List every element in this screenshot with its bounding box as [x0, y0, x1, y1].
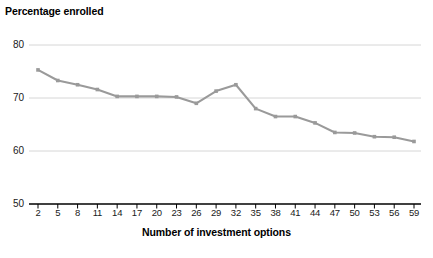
data-point-50: [353, 131, 357, 135]
data-point-2: [36, 68, 40, 72]
data-point-29: [214, 89, 218, 93]
data-point-8: [76, 83, 80, 87]
data-point-38: [274, 115, 278, 119]
data-point-56: [392, 135, 396, 139]
data-point-20: [155, 95, 159, 99]
data-point-14: [115, 95, 119, 99]
data-point-53: [373, 135, 377, 139]
data-point-23: [175, 95, 179, 99]
data-point-5: [56, 79, 60, 83]
data-point-44: [313, 121, 317, 125]
data-point-32: [234, 83, 238, 87]
data-series-line: [38, 70, 414, 142]
data-point-41: [293, 115, 297, 119]
chart-container: Percentage enrolled Number of investment…: [0, 0, 433, 258]
data-point-11: [96, 88, 100, 92]
data-point-59: [412, 140, 416, 144]
data-series-markers: [36, 68, 416, 143]
data-point-47: [333, 131, 337, 135]
plot-area: [0, 0, 433, 258]
data-point-26: [195, 102, 199, 106]
data-point-17: [135, 95, 139, 99]
data-point-35: [254, 107, 258, 111]
